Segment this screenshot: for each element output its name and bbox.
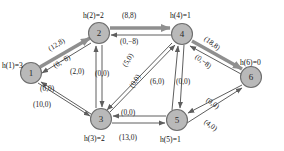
node-height-label-4: h(4)=1 — [170, 12, 191, 20]
node-label-2: 2 — [97, 28, 102, 38]
edge-label-5-3: (0,0) — [121, 109, 135, 116]
node-height-label-5: h(5)=1 — [160, 136, 181, 144]
edge-label-3-5: (13,0) — [119, 134, 137, 141]
edge-label-4-2: (0,−8) — [120, 38, 138, 45]
node-height-label-2: h(2)=2 — [83, 12, 104, 20]
flow-network-diagram: 1 2 3 4 5 6 h(1)=3 h(2)=2 h(3)=2 h(4)=1 … — [0, 0, 284, 151]
node-label-1: 1 — [29, 68, 34, 78]
node-label-6: 6 — [249, 72, 254, 82]
edge-label-2-3: (0,0) — [95, 70, 109, 77]
node-height-label-1: h(1)=3 — [2, 62, 23, 70]
edge-label-2-4: (8,8) — [122, 12, 136, 19]
node-label-4: 4 — [180, 29, 185, 39]
node-height-label-6: h(6)=0 — [240, 59, 261, 67]
edge-label-3-1: (0,0) — [40, 85, 54, 92]
node-label-3: 3 — [99, 114, 104, 124]
node-label-5: 5 — [175, 115, 180, 125]
diagram-canvas: 1 2 3 4 5 6 — [0, 0, 284, 151]
edge-label-1-3: (10,0) — [33, 101, 51, 108]
edge-3-4 — [110, 45, 175, 112]
node-height-label-3: h(3)=2 — [84, 135, 105, 143]
edge-label-4-5: (0,0) — [176, 78, 190, 85]
edge-label-5-4: (6,0) — [150, 78, 164, 85]
edge-label-3-2: (2,0) — [70, 68, 84, 75]
